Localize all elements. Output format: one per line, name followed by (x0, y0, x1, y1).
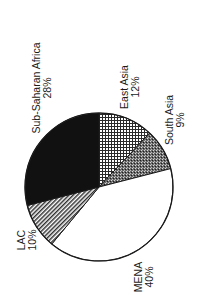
pie-chart-svg: Sub-Saharan Africa 28% East Asia 12% Sou… (0, 0, 197, 304)
label-mena: MENA 40% (132, 262, 155, 292)
label-sub-saharan-africa-pct: 28% (41, 77, 53, 98)
pie-chart: Sub-Saharan Africa 28% East Asia 12% Sou… (0, 0, 197, 304)
label-south-asia-pct: 9% (174, 112, 186, 127)
label-south-asia: South Asia 9% (163, 95, 186, 145)
label-sub-saharan-africa: Sub-Saharan Africa 28% (30, 42, 53, 133)
label-mena-pct: 40% (143, 266, 155, 287)
label-east-asia: East Asia 12% (118, 65, 141, 109)
label-lac: LAC 10% (15, 229, 38, 250)
label-lac-pct: 10% (26, 229, 38, 250)
label-east-asia-pct: 12% (129, 76, 141, 97)
